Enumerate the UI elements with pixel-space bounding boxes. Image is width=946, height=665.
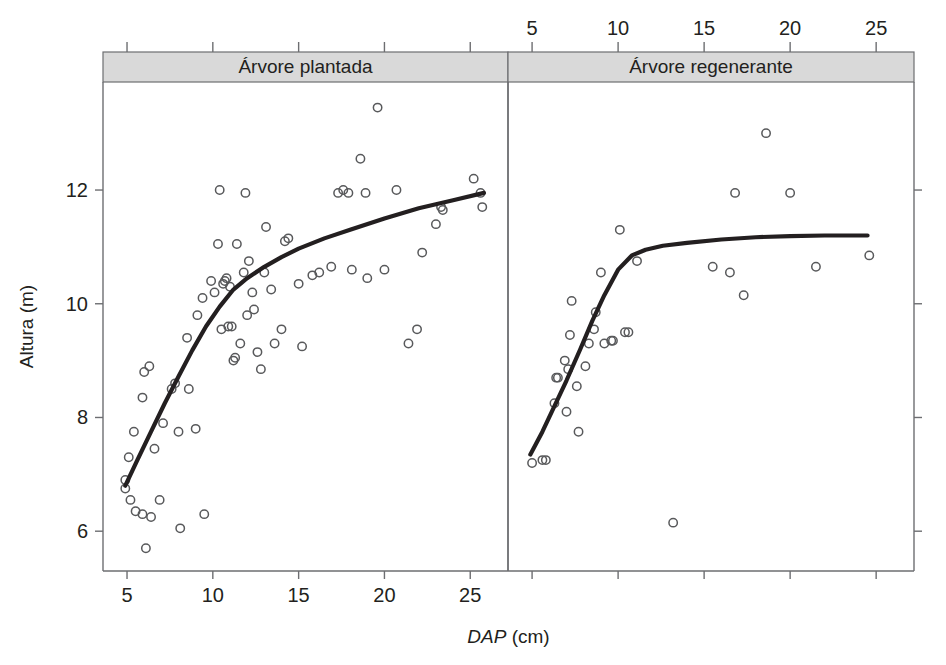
- data-point: [439, 206, 447, 214]
- data-point: [248, 288, 256, 296]
- x-tick-label-top: 5: [527, 17, 538, 39]
- data-point: [528, 459, 536, 467]
- x-tick-label-top: 20: [779, 17, 801, 39]
- data-point: [363, 274, 371, 282]
- data-points: [528, 129, 874, 527]
- y-tick-label: 10: [66, 293, 88, 315]
- data-point: [176, 524, 184, 532]
- data-point: [373, 103, 381, 111]
- data-point: [210, 288, 218, 296]
- data-point: [150, 445, 158, 453]
- data-point: [432, 220, 440, 228]
- data-point: [633, 257, 641, 265]
- x-tick-label-top: 15: [693, 17, 715, 39]
- x-tick-label-bottom: 5: [121, 584, 132, 606]
- data-point: [404, 339, 412, 347]
- data-point: [214, 240, 222, 248]
- plot-area: 681012Altura (m)Árvore plantada510152025…: [16, 17, 922, 647]
- data-point: [200, 510, 208, 518]
- data-point: [786, 189, 794, 197]
- x-axis-title: DAP (cm): [467, 626, 549, 647]
- figure-container: 681012Altura (m)Árvore plantada510152025…: [0, 0, 946, 665]
- data-point: [277, 325, 285, 333]
- data-point: [191, 425, 199, 433]
- data-point: [233, 240, 241, 248]
- data-point: [267, 285, 275, 293]
- data-point: [298, 342, 306, 350]
- data-point: [581, 362, 589, 370]
- data-point: [327, 263, 335, 271]
- data-point: [361, 189, 369, 197]
- y-tick-label: 8: [77, 406, 88, 428]
- data-point: [566, 331, 574, 339]
- fit-line: [125, 193, 484, 486]
- data-point: [669, 518, 677, 526]
- data-point: [198, 294, 206, 302]
- data-point: [567, 297, 575, 305]
- x-axis-title-unit: (cm): [506, 626, 549, 647]
- data-point: [762, 129, 770, 137]
- data-point: [130, 427, 138, 435]
- data-point: [418, 248, 426, 256]
- x-tick-label-bottom: 20: [373, 584, 395, 606]
- y-tick-label: 12: [66, 179, 88, 201]
- data-point: [731, 189, 739, 197]
- data-point: [125, 453, 133, 461]
- data-point: [257, 365, 265, 373]
- data-point: [812, 263, 820, 271]
- data-point: [236, 339, 244, 347]
- data-point: [726, 268, 734, 276]
- data-point: [159, 419, 167, 427]
- data-point: [478, 203, 486, 211]
- data-point: [207, 277, 215, 285]
- x-tick-label-bottom: 15: [288, 584, 310, 606]
- data-point: [392, 186, 400, 194]
- x-axis-title-variable: DAP: [467, 626, 506, 647]
- data-point: [183, 334, 191, 342]
- data-points: [121, 103, 486, 552]
- data-point: [215, 186, 223, 194]
- data-point: [147, 513, 155, 521]
- data-point: [616, 226, 624, 234]
- data-point: [241, 189, 249, 197]
- data-point: [240, 268, 248, 276]
- data-point: [185, 385, 193, 393]
- data-point: [348, 265, 356, 273]
- data-point: [245, 257, 253, 265]
- data-point: [253, 348, 261, 356]
- data-point: [709, 263, 717, 271]
- data-point: [155, 496, 163, 504]
- data-point: [865, 251, 873, 259]
- data-point: [574, 427, 582, 435]
- strip-label: Árvore regenerante: [629, 56, 793, 77]
- strip-label: Árvore plantada: [238, 56, 373, 77]
- data-point: [739, 291, 747, 299]
- data-point: [138, 393, 146, 401]
- data-point: [174, 427, 182, 435]
- data-point: [250, 305, 258, 313]
- data-point: [561, 356, 569, 364]
- y-tick-label: 6: [77, 520, 88, 542]
- data-point: [294, 280, 302, 288]
- data-point: [597, 268, 605, 276]
- data-point: [356, 155, 364, 163]
- data-point: [126, 496, 134, 504]
- data-point: [413, 325, 421, 333]
- x-tick-label-bottom: 25: [459, 584, 481, 606]
- data-point: [573, 382, 581, 390]
- fit-line: [530, 236, 867, 455]
- data-point: [380, 265, 388, 273]
- data-point: [231, 354, 239, 362]
- planted-tree-panel: Árvore plantada510152025: [103, 42, 508, 606]
- scatter-chart: 681012Altura (m)Árvore plantada510152025…: [0, 0, 946, 665]
- data-point: [262, 223, 270, 231]
- regenerating-tree-panel: Árvore regenerante510152025: [508, 17, 922, 579]
- x-tick-label-bottom: 10: [202, 584, 224, 606]
- x-tick-label-top: 25: [865, 17, 887, 39]
- data-point: [562, 408, 570, 416]
- data-point: [469, 174, 477, 182]
- data-point: [270, 339, 278, 347]
- data-point: [142, 544, 150, 552]
- data-point: [193, 311, 201, 319]
- x-tick-label-top: 10: [607, 17, 629, 39]
